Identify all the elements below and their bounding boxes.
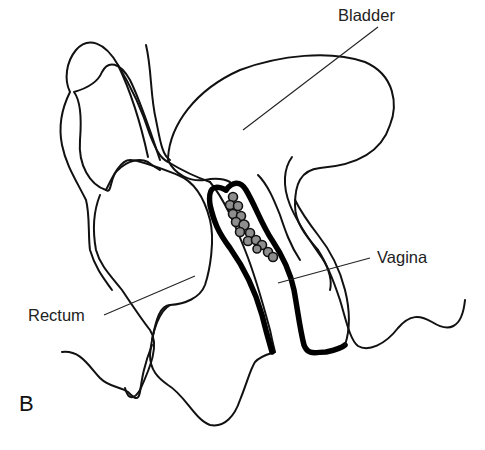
- rectum-label: Rectum: [28, 307, 85, 324]
- bladder-label: Bladder: [338, 7, 395, 24]
- pelvic-sagittal-drawing: [0, 0, 485, 450]
- perineal-skin-left: [62, 345, 152, 398]
- panel-letter: B: [19, 393, 34, 415]
- fascial-line-1: [146, 45, 170, 160]
- posterior-outer-contour: [60, 43, 148, 290]
- rectum-inner-outline: [106, 160, 212, 340]
- perineal-body-outline: [150, 305, 275, 425]
- bladder-leader-line: [243, 27, 378, 130]
- vagina-introitus-outline: [295, 200, 349, 345]
- vagina-label: Vagina: [377, 249, 427, 266]
- rectum-leader-line: [104, 276, 195, 315]
- bladder-outline: [168, 55, 394, 250]
